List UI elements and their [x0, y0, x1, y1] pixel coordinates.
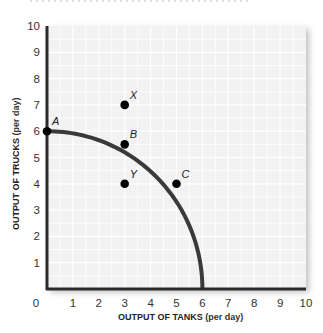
x-axis-title-bold: OUTPUT OF TANKS — [118, 312, 203, 322]
x-tick-label: 0 — [33, 297, 39, 309]
x-tick-label: 6 — [199, 297, 205, 309]
point-label-x: X — [129, 89, 138, 101]
x-tick-label: 2 — [96, 297, 102, 309]
point-a — [43, 127, 52, 136]
x-tick-label: 7 — [225, 297, 231, 309]
y-tick-label: 2 — [34, 230, 40, 242]
y-tick-label: 9 — [34, 46, 40, 58]
x-tick-label: 5 — [173, 297, 179, 309]
point-label-a: A — [51, 115, 59, 127]
point-x — [120, 101, 129, 110]
y-axis-title: OUTPUT OF TRUCKS (per day) — [11, 97, 21, 230]
grid-lines — [47, 26, 306, 289]
point-c — [172, 180, 181, 189]
y-tick-label: 4 — [34, 178, 41, 190]
point-label-c: C — [182, 168, 190, 180]
point-b — [120, 140, 129, 149]
x-tick-label: 3 — [121, 297, 127, 309]
x-tick-label: 4 — [147, 297, 154, 309]
x-axis-title-unit: (per day) — [203, 312, 244, 322]
y-tick-label: 8 — [34, 73, 40, 85]
y-tick-label: 6 — [34, 125, 40, 137]
ppc-chart: 012345678910 12345678910 ABCXY OUTPUT OF… — [0, 0, 323, 333]
x-tick-label: 10 — [300, 297, 313, 309]
x-axis-title: OUTPUT OF TANKS (per day) — [118, 312, 243, 322]
y-axis-title-unit: (per day) — [11, 97, 21, 138]
y-tick-label: 7 — [34, 99, 40, 111]
point-label-y: Y — [130, 168, 138, 180]
y-tick-label: 3 — [34, 204, 40, 216]
y-axis-title-bold: OUTPUT OF TRUCKS — [11, 138, 21, 230]
y-tick-label: 5 — [34, 152, 40, 164]
y-tick-label: 1 — [34, 257, 40, 269]
y-tick-label: 10 — [27, 20, 40, 32]
x-tick-label: 1 — [70, 297, 76, 309]
point-label-b: B — [130, 128, 137, 140]
x-tick-label: 8 — [251, 297, 257, 309]
point-y — [120, 180, 129, 189]
x-tick-label: 9 — [277, 297, 283, 309]
